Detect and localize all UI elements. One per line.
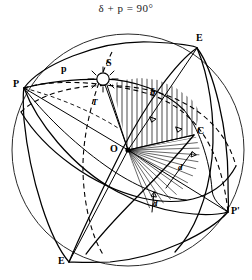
label-pole-right: P' — [231, 206, 240, 216]
label-equinox-top: E — [196, 33, 203, 43]
construction-lines — [24, 48, 228, 262]
label-pole-left: P — [13, 79, 19, 89]
sphere-svg — [0, 0, 252, 280]
label-distance-d-upper: d — [178, 163, 183, 172]
great-circle-meridian-C — [86, 135, 194, 254]
label-equinox-bottom: E — [58, 256, 65, 266]
great-circle-celestial-equator — [21, 85, 236, 201]
label-angle-delta: δ — [150, 87, 155, 97]
star-symbol-S — [88, 67, 118, 92]
label-arc-p: p — [61, 64, 67, 74]
celestial-sphere-figure — [0, 0, 252, 280]
great-circle-ecliptic — [23, 42, 228, 263]
label-star-s: S — [106, 58, 112, 68]
label-aux-t: T — [92, 98, 98, 107]
label-point-c: C — [197, 126, 204, 136]
label-center-o: O — [110, 144, 118, 154]
center-point-marker — [125, 147, 130, 152]
label-distance-d-lower: d — [153, 199, 158, 208]
